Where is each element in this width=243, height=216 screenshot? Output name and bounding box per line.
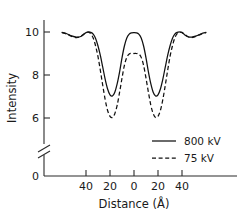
- data-curve-75kv: [62, 32, 206, 118]
- x-tick-label-plus20: 20: [151, 180, 165, 193]
- chart-plot-area: 10 8 6 0 40 20 0 20 40 Distance (Å) Inte…: [0, 0, 243, 216]
- chart-legend: 800 kV 75 kV: [152, 135, 221, 164]
- y-tick-label-6: 6: [32, 112, 39, 125]
- x-tick-label-minus40: 40: [79, 180, 93, 193]
- y-tick-label-0: 0: [32, 170, 39, 183]
- x-tick-label-0: 0: [131, 180, 138, 193]
- chart-figure: 10 8 6 0 40 20 0 20 40 Distance (Å) Inte…: [0, 0, 243, 216]
- y-axis-break-mark-upper: [38, 145, 50, 152]
- y-axis-title: Intensity: [5, 73, 19, 123]
- legend-label-800kv: 800 kV: [184, 135, 221, 147]
- legend-label-75kv: 75 kV: [184, 152, 215, 164]
- x-tick-label-minus20: 20: [103, 180, 117, 193]
- x-tick-label-plus40: 40: [175, 180, 189, 193]
- x-axis-title: Distance (Å): [99, 196, 170, 211]
- data-curve-800kv: [62, 32, 206, 96]
- y-tick-label-10: 10: [25, 26, 39, 39]
- y-tick-label-8: 8: [32, 69, 39, 82]
